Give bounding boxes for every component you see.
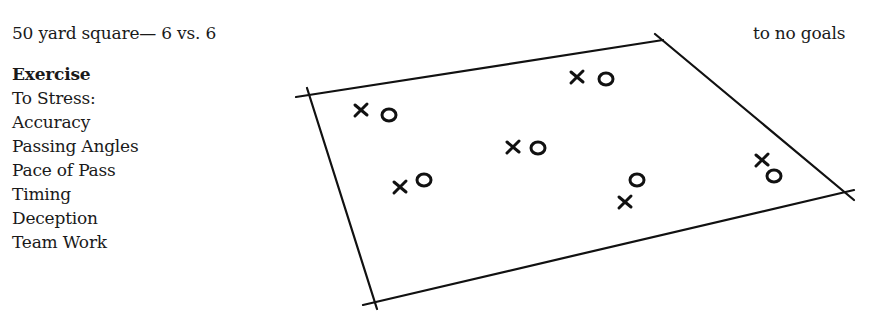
o-player-icon (599, 73, 613, 85)
x-player-icon (571, 71, 583, 83)
x-player-icon (394, 181, 406, 193)
x-player-icon (619, 196, 631, 208)
x-player-icon (756, 154, 768, 166)
o-player-icon (382, 109, 396, 121)
o-player-icon (417, 174, 431, 186)
players-layer (355, 71, 781, 208)
player-pair (507, 141, 545, 154)
o-player-icon (531, 142, 545, 154)
o-player-icon (767, 170, 781, 182)
player-pair (619, 174, 644, 208)
player-pair (355, 104, 396, 121)
player-pair (394, 174, 431, 193)
o-player-icon (630, 174, 644, 186)
player-pair (571, 71, 613, 85)
x-player-icon (355, 104, 367, 116)
field-diagram (0, 0, 873, 319)
player-pair (756, 154, 781, 182)
x-player-icon (507, 141, 519, 153)
